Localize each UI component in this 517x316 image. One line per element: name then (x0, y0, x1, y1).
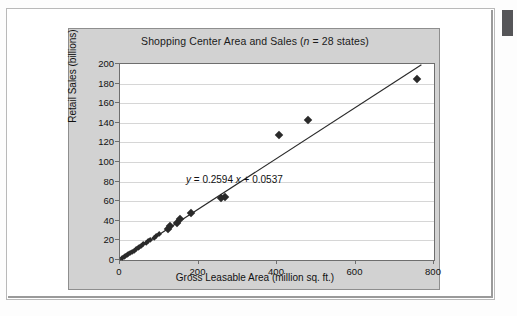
corner-tab-mark (502, 10, 513, 36)
y-tick-label: 160 (74, 97, 114, 108)
x-tick-label: 800 (413, 266, 453, 277)
y-tick-label: 200 (74, 58, 114, 69)
y-tick-label: 120 (74, 136, 114, 147)
y-tick-label: 140 (74, 116, 114, 127)
x-tick-label: 0 (99, 266, 139, 277)
y-tick-label: 80 (74, 175, 114, 186)
y-tick-label: 20 (74, 234, 114, 245)
y-tick-label: 60 (74, 195, 114, 206)
chart-title: Shopping Center Area and Sales (n = 28 s… (69, 35, 441, 47)
chart-title-lead: Shopping Center Area and Sales ( (141, 35, 304, 47)
chart-title-tail: = 28 states) (310, 35, 369, 47)
x-tick-label: 200 (178, 266, 218, 277)
y-tick-label: 180 (74, 77, 114, 88)
regression-equation: y = 0.2594 x + 0.0537 (186, 174, 283, 185)
x-tick-label: 400 (256, 266, 296, 277)
plot-area: y = 0.2594 x + 0.0537 (119, 63, 435, 261)
x-tick-label: 600 (335, 266, 375, 277)
y-tick-label: 100 (74, 156, 114, 167)
page-canvas: Shopping Center Area and Sales (n = 28 s… (0, 0, 517, 316)
equation-intercept: + 0.0537 (241, 174, 283, 185)
equation-operator: = 0.2594 (191, 174, 236, 185)
y-tick-label: 40 (74, 214, 114, 225)
chart-panel: Shopping Center Area and Sales (n = 28 s… (68, 28, 440, 290)
y-tick-label: 0 (74, 254, 114, 265)
